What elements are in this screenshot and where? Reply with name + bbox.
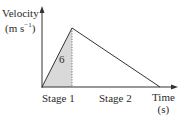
- y-axis-label: Velocity (m s−1): [2, 7, 39, 34]
- x-axis-arrow-icon: [171, 85, 178, 90]
- stage2-label: Stage 2: [99, 92, 132, 104]
- area-label: 6: [59, 53, 65, 65]
- y-axis-arrow-icon: [40, 6, 45, 13]
- y-axis-label-title: Velocity: [2, 7, 39, 19]
- stage1-label: Stage 1: [42, 92, 75, 104]
- y-axis-label-units: (m s−1): [2, 19, 39, 34]
- x-axis-label: Time (s): [152, 91, 175, 115]
